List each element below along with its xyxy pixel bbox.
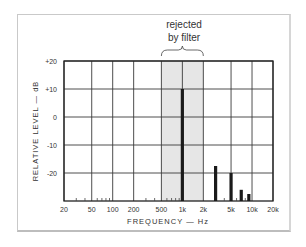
x-tick-label: 20 <box>60 206 68 213</box>
spectrum-bar <box>229 173 232 201</box>
y-tick-labels: +20+100-10-20 <box>45 58 57 177</box>
x-tick-label: 200 <box>128 206 140 213</box>
y-axis-label: RELATIVE LEVEL — dB <box>31 81 40 182</box>
brace-annotation <box>161 46 203 56</box>
spectrum-bar <box>214 166 217 201</box>
x-tick-labels: 20501002005001k2k5k10k20k <box>60 206 279 213</box>
annotation-line-1: rejected <box>166 19 202 30</box>
annotation-line-2: by filter <box>168 32 201 43</box>
x-tick-label: 1k <box>179 206 187 213</box>
x-tick-label: 2k <box>200 206 208 213</box>
spectrum-bar <box>247 194 250 201</box>
y-tick-label: +10 <box>45 86 57 93</box>
brace-icon <box>161 46 203 56</box>
x-tick-label: 10k <box>246 206 258 213</box>
spectrum-bar <box>181 89 184 201</box>
y-tick-label: 0 <box>53 114 57 121</box>
x-tick-label: 500 <box>156 206 168 213</box>
y-tick-label: -20 <box>47 170 57 177</box>
x-tick-label: 20k <box>267 206 279 213</box>
frequency-spectrum-chart: 20501002005001k2k5k10k20k +20+100-10-20 … <box>0 0 306 247</box>
x-tick-label: 100 <box>107 206 119 213</box>
x-axis-label: FREQUENCY — Hz <box>127 217 209 226</box>
x-tick-label: 5k <box>227 206 235 213</box>
y-tick-label: +20 <box>45 58 57 65</box>
x-tick-label: 50 <box>88 206 96 213</box>
spectrum-bar <box>240 190 243 201</box>
y-tick-label: -10 <box>47 142 57 149</box>
